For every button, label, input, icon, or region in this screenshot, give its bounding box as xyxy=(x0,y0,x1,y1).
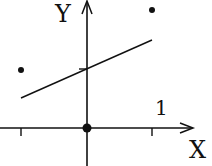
diagram-canvas xyxy=(0,0,212,166)
left-point xyxy=(18,67,24,73)
origin-point xyxy=(83,124,92,133)
y-axis-label: Y xyxy=(55,2,71,26)
right-point xyxy=(149,7,155,13)
x-axis-label: X xyxy=(189,138,206,162)
tick-label-1: 1 xyxy=(155,98,168,118)
